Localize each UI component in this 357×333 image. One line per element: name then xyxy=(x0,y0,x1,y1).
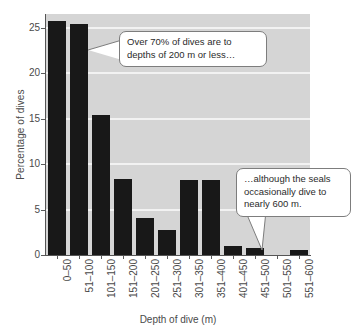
bar-201–250 xyxy=(136,218,154,255)
y-tick-label-20: 20 xyxy=(18,68,40,78)
bar-351–400 xyxy=(202,180,220,255)
x-tick-mark-551–600 xyxy=(299,256,300,259)
x-tick-mark-351–400 xyxy=(211,256,212,259)
y-tick-label-10: 10 xyxy=(18,159,40,169)
x-axis-title: Depth of dive (m) xyxy=(46,314,310,326)
x-tick-mark-0–50 xyxy=(57,256,58,259)
bar-551–600 xyxy=(290,250,308,255)
x-tick-mark-301–350 xyxy=(189,256,190,259)
x-axis-line xyxy=(45,255,311,256)
x-tick-label-201–250: 201–250 xyxy=(150,259,162,319)
x-tick-mark-251–300 xyxy=(167,256,168,259)
x-tick-label-351–400: 351–400 xyxy=(216,259,228,319)
x-tick-label-401–450: 401–450 xyxy=(238,259,250,319)
callout-2-line-3: nearly 600 m. xyxy=(244,198,343,211)
bar-301–350 xyxy=(180,180,198,255)
dive-depth-bar-chart: Percentage of dives 0510152025 0–5051–10… xyxy=(0,0,357,333)
x-tick-label-451–500: 451–500 xyxy=(260,259,272,319)
y-tick-label-25: 25 xyxy=(18,23,40,33)
y-axis-tick-labels: 0510152025 xyxy=(18,0,40,333)
x-tick-mark-501–550 xyxy=(277,256,278,259)
bar-51–100 xyxy=(70,24,88,255)
callout-2-line-2: occasionally dive to xyxy=(244,186,343,199)
bar-101–150 xyxy=(92,115,110,255)
x-tick-label-51–100: 51–100 xyxy=(84,259,96,319)
x-tick-mark-201–250 xyxy=(145,256,146,259)
x-tick-label-101–150: 101–150 xyxy=(106,259,118,319)
y-tick-label-5: 5 xyxy=(18,205,40,215)
y-tick-label-15: 15 xyxy=(18,114,40,124)
callout-2-line-1: …although the seals xyxy=(244,173,343,186)
x-tick-label-0–50: 0–50 xyxy=(62,259,74,319)
x-tick-label-251–300: 251–300 xyxy=(172,259,184,319)
x-tick-mark-451–500 xyxy=(255,256,256,259)
callout-1-line-1: Over 70% of dives are to xyxy=(127,36,259,49)
x-tick-label-151–200: 151–200 xyxy=(128,259,140,319)
x-tick-label-301–350: 301–350 xyxy=(194,259,206,319)
x-tick-label-501–550: 501–550 xyxy=(282,259,294,319)
callout-1-line-2: depths of 200 m or less… xyxy=(127,49,259,62)
x-tick-mark-401–450 xyxy=(233,256,234,259)
bar-151–200 xyxy=(114,179,132,255)
y-tick-label-0: 0 xyxy=(18,250,40,260)
x-tick-mark-101–150 xyxy=(101,256,102,259)
x-tick-mark-151–200 xyxy=(123,256,124,259)
bar-0–50 xyxy=(48,21,66,255)
x-tick-label-551–600: 551–600 xyxy=(304,259,316,319)
callout-annotation-2: …although the seals occasionally dive to… xyxy=(236,168,351,217)
callout-annotation-1: Over 70% of dives are to depths of 200 m… xyxy=(119,31,267,67)
bar-251–300 xyxy=(158,230,176,255)
x-tick-mark-51–100 xyxy=(79,256,80,259)
